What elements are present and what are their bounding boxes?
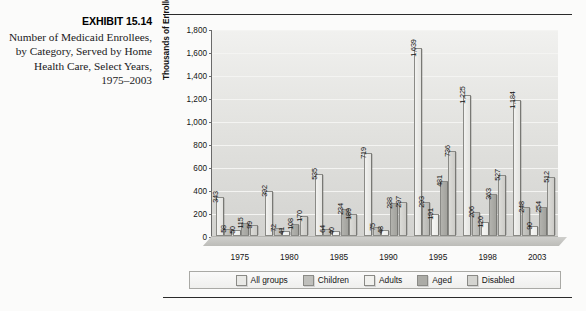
bar-value-label: 248 [517, 202, 526, 214]
bar-adults-1998: 120 [481, 222, 489, 236]
exhibit-number: EXHIBIT 15.14 [4, 14, 152, 29]
bar-chart: Thousands of Enrollees 02004006008001,00… [163, 22, 572, 294]
bar-value-label: 736 [443, 146, 452, 158]
bar-disabled-1995: 736 [448, 151, 456, 236]
bar-side-face [505, 176, 507, 235]
bar-all-groups-2003: 1,184 [513, 100, 521, 236]
bar-disabled-1980: 170 [300, 216, 308, 236]
legend-label: Aged [432, 275, 452, 285]
y-axis-tick-label: 1,800 [187, 26, 208, 35]
legend-item-disabled[interactable]: Disabled [467, 275, 515, 286]
exhibit-page: EXHIBIT 15.14 Number of Medicaid Enrolle… [0, 0, 586, 311]
bar-value-label: 392 [260, 185, 269, 197]
bar-aged-1990: 288 [390, 203, 398, 236]
bar-value-label: 40 [327, 228, 336, 236]
bar-value-label: 512 [542, 171, 551, 183]
bar-value-label: 1,184 [508, 91, 517, 108]
bar-disabled-1998: 527 [498, 175, 506, 236]
bar-value-label: 527 [493, 170, 502, 182]
bar-value-label: 41 [277, 227, 286, 235]
x-axis-tick-label: 1998 [478, 252, 496, 262]
bar-value-label: 719 [359, 148, 368, 160]
y-axis-tick-label: 1,200 [187, 95, 208, 104]
bar-value-label: 189 [344, 208, 353, 220]
bar-disabled-2003: 512 [547, 177, 555, 236]
bar-value-label: 99 [245, 221, 254, 229]
x-axis-tick-label: 2003 [528, 252, 546, 262]
legend-swatch [467, 275, 478, 286]
y-axis-tick-label: 400 [193, 187, 207, 196]
bar-group: 3927241108170 [262, 30, 312, 236]
bar-value-label: 108 [286, 218, 295, 230]
bar-value-label: 297 [394, 196, 403, 208]
legend-label: Children [318, 275, 349, 285]
legend-label: All groups [251, 275, 288, 285]
x-axis-tick-label: 1975 [231, 252, 249, 262]
bar-value-label: 293 [417, 197, 426, 209]
y-axis-label: Thousands of Enrollees [161, 0, 171, 80]
legend-label: Adults [379, 275, 402, 285]
bar-side-face [406, 203, 408, 235]
bar-value-label: 535 [310, 169, 319, 181]
legend-item-aged[interactable]: Aged [417, 275, 452, 286]
bottom-rule [163, 297, 572, 298]
exhibit-caption: EXHIBIT 15.14 Number of Medicaid Enrolle… [4, 14, 152, 88]
bar-value-label: 1,639 [409, 39, 418, 56]
legend-item-children[interactable]: Children [303, 275, 349, 286]
bar-disabled-1975: 99 [250, 225, 258, 236]
y-axis-tick-label: 1,000 [187, 118, 208, 127]
legend-label: Disabled [482, 275, 515, 285]
x-axis-tick-label: 1990 [379, 252, 397, 262]
bar-side-face [257, 226, 259, 235]
x-axis-tick-label: 1985 [330, 252, 348, 262]
bar-side-face [455, 152, 457, 235]
bar-value-label: 481 [435, 175, 444, 187]
bar-group: 5356440234189 [311, 30, 361, 236]
bar-side-face [554, 178, 556, 235]
bar-value-label: 90 [525, 222, 534, 230]
plot-floor [203, 237, 567, 246]
legend-item-all-groups[interactable]: All groups [236, 275, 288, 286]
bar-adults-1995: 191 [431, 214, 439, 236]
bar-side-face [307, 217, 309, 235]
legend-swatch [303, 275, 314, 286]
top-rule [163, 14, 572, 15]
y-axis-tick-label: 600 [193, 164, 207, 173]
bar-value-label: 64 [318, 225, 327, 233]
plot-area: 02004006008001,0001,2001,4001,6001,80034… [211, 30, 558, 237]
bar-disabled-1985: 189 [349, 214, 357, 236]
bar-group: 343585011599 [212, 30, 262, 236]
bar-value-label: 48 [376, 227, 385, 235]
bar-value-label: 343 [211, 191, 220, 203]
bar-group: 7197548288297 [361, 30, 411, 236]
bar-value-label: 288 [385, 197, 394, 209]
bar-aged-1998: 363 [489, 194, 497, 236]
bar-side-face [356, 215, 358, 235]
y-axis-tick-label: 1,400 [187, 72, 208, 81]
bar-value-label: 206 [467, 207, 476, 219]
exhibit-title: Number of Medicaid Enrollees, by Categor… [4, 30, 152, 88]
bar-value-label: 120 [476, 216, 485, 228]
legend-swatch [364, 275, 375, 286]
bar-disabled-1990: 297 [399, 202, 407, 236]
bar-value-label: 1,225 [458, 86, 467, 103]
legend-swatch [236, 275, 247, 286]
bar-value-label: 170 [295, 211, 304, 223]
bar-group: 1,639293191481736 [410, 30, 460, 236]
bar-value-label: 254 [534, 201, 543, 213]
bar-value-label: 58 [219, 225, 228, 233]
y-axis-tick-label: 1,600 [187, 49, 208, 58]
x-axis-tick-label: 1995 [429, 252, 447, 262]
chart-legend: All groupsChildrenAdultsAgedDisabled [189, 271, 561, 289]
bar-aged-1980: 108 [291, 224, 299, 236]
bar-group: 1,225206120363527 [460, 30, 510, 236]
bar-value-label: 363 [484, 188, 493, 200]
x-axis-tick-label: 1980 [280, 252, 298, 262]
legend-swatch [417, 275, 428, 286]
bar-value-label: 191 [426, 208, 435, 220]
legend-item-adults[interactable]: Adults [364, 275, 402, 286]
y-axis-tick-label: 200 [193, 210, 207, 219]
y-axis-tick-label: 800 [193, 141, 207, 150]
bar-aged-2003: 254 [539, 207, 547, 236]
bar-aged-1995: 481 [440, 181, 448, 236]
